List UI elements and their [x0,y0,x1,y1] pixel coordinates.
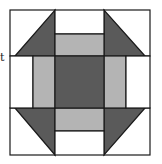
edge-right-white [126,56,150,108]
quilt-block [0,0,162,164]
edge-left-light [33,56,55,108]
edge-right-light [104,56,126,108]
edge-bottom-light [55,108,104,131]
center-square [55,56,104,108]
edge-left-white [10,56,33,108]
edge-bottom-white [55,131,104,155]
edge-top-light [55,34,104,56]
edge-top-white [55,10,104,34]
